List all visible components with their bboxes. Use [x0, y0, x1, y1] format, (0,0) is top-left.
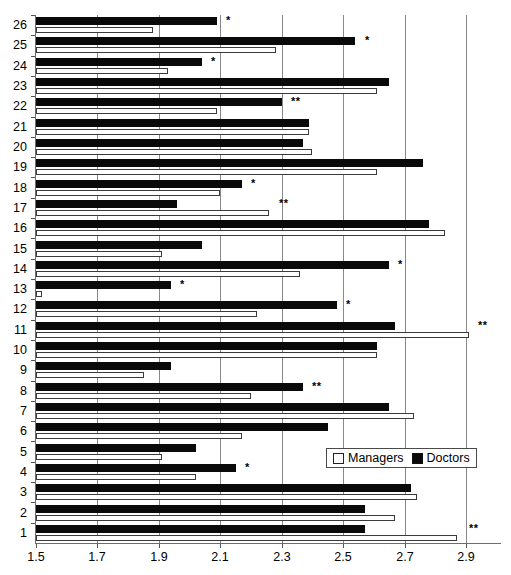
significance-marker: **	[279, 198, 289, 209]
significance-marker: *	[398, 259, 403, 270]
x-axis-tick-label: 1.5	[16, 551, 56, 564]
legend-item-doctors: Doctors	[412, 451, 470, 465]
significance-marker: *	[211, 56, 216, 67]
bar-managers	[36, 129, 309, 135]
x-tick	[282, 544, 283, 548]
y-axis-tick-label: 9	[0, 364, 27, 377]
bar-managers	[36, 535, 457, 541]
y-tick	[31, 401, 35, 402]
bar-managers	[36, 230, 445, 236]
y-tick	[31, 340, 35, 341]
bar-doctors	[36, 58, 202, 66]
bar-managers	[36, 169, 377, 175]
bar-doctors	[36, 261, 389, 269]
x-axis-tick-label: 2.3	[262, 551, 302, 564]
y-tick	[31, 299, 35, 300]
y-axis-tick-label: 22	[0, 100, 27, 113]
y-axis-tick-label: 21	[0, 121, 27, 134]
legend: ManagersDoctors	[326, 448, 477, 468]
y-tick	[31, 137, 35, 138]
bar-managers	[36, 332, 469, 338]
y-axis-tick-label: 6	[0, 425, 27, 438]
y-tick	[31, 198, 35, 199]
x-axis-line	[35, 543, 501, 544]
y-axis-tick-label: 17	[0, 202, 27, 215]
bar-doctors	[36, 78, 389, 86]
bar-managers	[36, 271, 300, 277]
bar-doctors	[36, 301, 337, 309]
x-tick	[405, 544, 406, 548]
bar-doctors	[36, 464, 236, 472]
y-tick	[31, 218, 35, 219]
y-axis-tick-label: 19	[0, 161, 27, 174]
bar-doctors	[36, 383, 303, 391]
y-axis-tick-label: 4	[0, 466, 27, 479]
bar-managers	[36, 149, 312, 155]
bar-managers	[36, 433, 242, 439]
bar-doctors	[36, 525, 365, 533]
bar-doctors	[36, 505, 365, 513]
y-axis-tick-label: 20	[0, 141, 27, 154]
legend-swatch-doctors-icon	[412, 453, 423, 464]
bar-doctors	[36, 322, 395, 330]
bar-managers	[36, 494, 417, 500]
bar-doctors	[36, 362, 171, 370]
significance-marker: *	[346, 299, 351, 310]
y-tick	[31, 482, 35, 483]
y-tick	[31, 502, 35, 503]
x-axis-tick-label: 1.7	[77, 551, 117, 564]
bar-managers	[36, 372, 144, 378]
x-tick	[343, 544, 344, 548]
x-tick	[159, 544, 160, 548]
x-axis-tick-label: 2.1	[200, 551, 240, 564]
bar-doctors	[36, 119, 309, 127]
y-tick	[31, 117, 35, 118]
y-tick	[31, 421, 35, 422]
x-tick	[36, 544, 37, 548]
y-tick	[31, 441, 35, 442]
y-tick	[31, 259, 35, 260]
bar-managers	[36, 352, 377, 358]
significance-marker: *	[251, 178, 256, 189]
y-axis-tick-label: 5	[0, 446, 27, 459]
x-axis-tick-label: 2.9	[446, 551, 486, 564]
y-axis-tick-label: 11	[0, 324, 27, 337]
y-axis-tick-label: 16	[0, 222, 27, 235]
bar-managers	[36, 291, 42, 297]
legend-item-managers: Managers	[333, 451, 404, 465]
bar-managers	[36, 68, 168, 74]
legend-label-managers: Managers	[348, 451, 404, 465]
bar-doctors	[36, 403, 389, 411]
bar-doctors	[36, 241, 202, 249]
bar-doctors	[36, 98, 282, 106]
x-axis-tick-label: 2.7	[385, 551, 425, 564]
bar-doctors	[36, 423, 328, 431]
bar-doctors	[36, 180, 242, 188]
y-axis-tick-label: 25	[0, 39, 27, 52]
bar-doctors	[36, 484, 411, 492]
y-axis-tick-label: 3	[0, 486, 27, 499]
bar-doctors	[36, 281, 171, 289]
x-tick	[220, 544, 221, 548]
y-axis-tick-label: 26	[0, 19, 27, 32]
y-axis-tick-label: 2	[0, 507, 27, 520]
y-axis-tick-label: 7	[0, 405, 27, 418]
y-tick	[31, 177, 35, 178]
x-tick	[466, 544, 467, 548]
legend-label-doctors: Doctors	[427, 451, 470, 465]
y-tick	[31, 157, 35, 158]
bar-managers	[36, 108, 217, 114]
bar-managers	[36, 190, 220, 196]
y-axis-tick-label: 8	[0, 385, 27, 398]
bar-managers	[36, 311, 257, 317]
y-axis-tick-label: 14	[0, 263, 27, 276]
x-axis-tick-label: 1.9	[139, 551, 179, 564]
y-tick	[31, 381, 35, 382]
y-axis-tick-label: 23	[0, 80, 27, 93]
gridline	[282, 15, 283, 543]
y-axis-tick-label: 18	[0, 182, 27, 195]
x-axis-tick-label: 2.5	[323, 551, 363, 564]
bar-managers	[36, 393, 251, 399]
y-tick	[31, 96, 35, 97]
y-tick	[31, 462, 35, 463]
